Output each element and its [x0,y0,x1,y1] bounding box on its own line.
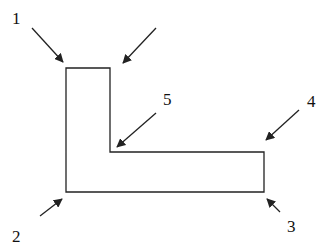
arrow-4 [266,110,299,140]
diagram-canvas [0,0,329,251]
label-3: 3 [287,218,296,235]
label-4: 4 [307,93,316,110]
arrow-2 [40,199,62,216]
label-1: 1 [12,10,21,27]
arrow-top-right [123,28,156,63]
l-shape-outline [66,68,264,192]
label-2: 2 [12,228,21,245]
arrow-1 [32,28,63,62]
arrow-3 [267,199,280,212]
label-5: 5 [163,91,172,108]
arrow-5 [117,113,156,147]
